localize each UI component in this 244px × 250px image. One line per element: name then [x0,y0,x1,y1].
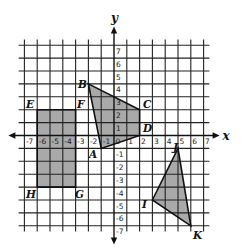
y-tick-label: 4 [116,85,121,94]
x-tick-label: 1 [128,137,133,146]
vertex-label-k: K [192,229,203,241]
y-tick-label: -5 [116,202,124,211]
vertex-label-c: C [143,98,152,110]
vertex-label-d: D [142,122,153,134]
y-tick-label: -3 [116,176,124,185]
y-tick-label: 5 [116,73,121,82]
x-tick-label: 4 [167,137,172,146]
vertex-label-j: J [171,141,179,153]
x-tick-label: 7 [205,137,210,146]
x-axis-arrow-left-icon [8,132,15,138]
y-tick-label: 1 [116,124,121,133]
x-tick-label: -2 [90,137,98,146]
coordinate-plane-diagram: x y -7-6-5-4-3-2-101234567-7-6-5-4-3-2-1… [0,0,244,250]
x-tick-label: -5 [52,137,60,146]
x-tick-label: -7 [26,137,34,146]
x-tick-label: 3 [154,137,159,146]
x-tick-label: -3 [77,137,85,146]
y-tick-label: 2 [116,111,121,120]
y-tick-label: -6 [116,214,124,223]
y-tick-label: -7 [116,227,124,236]
y-tick-label: 3 [116,98,121,107]
y-axis-label: y [110,11,119,25]
vertex-label-b: B [77,78,87,90]
y-tick-label: 7 [116,47,121,56]
x-tick-label: 6 [192,137,197,146]
x-axis-arrow-right-icon [213,132,220,138]
y-tick-label: -2 [116,163,124,172]
y-tick-label: -1 [116,150,124,159]
y-axis-arrow-down-icon [111,238,117,245]
vertex-label-a: A [88,148,97,160]
x-tick-label: -6 [39,137,47,146]
vertex-label-g: G [75,188,84,200]
x-tick-label: 5 [180,137,185,146]
vertex-label-e: E [25,98,35,110]
y-axis-arrow-up-icon [111,26,117,33]
x-tick-label: 0 [116,137,121,146]
x-tick-label: -1 [103,137,111,146]
x-tick-label: 2 [141,137,146,146]
vertex-label-f: F [76,98,86,110]
y-tick-label: -4 [116,189,124,198]
vertex-label-h: H [25,188,37,200]
x-tick-label: -4 [64,137,72,146]
x-axis-label: x [222,129,231,143]
y-tick-label: 6 [116,60,121,69]
